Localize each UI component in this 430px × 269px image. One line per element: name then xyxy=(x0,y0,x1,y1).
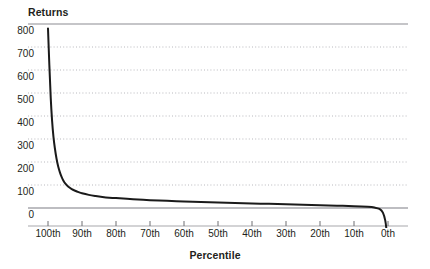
y-tick-label: 200 xyxy=(4,163,34,174)
y-tick-label: 800 xyxy=(4,25,34,36)
x-tick-label: 0th xyxy=(366,228,410,239)
y-tick-label: 300 xyxy=(4,140,34,151)
y-tick-label: 0 xyxy=(4,209,34,220)
data-series-line xyxy=(48,29,388,243)
y-tick-label: 700 xyxy=(4,48,34,59)
y-tick-label: 500 xyxy=(4,94,34,105)
returns-percentile-chart: Returns Percentile 800700600500400300200… xyxy=(0,0,430,269)
x-axis-title: Percentile xyxy=(0,249,430,261)
y-tick-label: 400 xyxy=(4,117,34,128)
y-tick-label: 100 xyxy=(4,186,34,197)
y-tick-label: 600 xyxy=(4,71,34,82)
